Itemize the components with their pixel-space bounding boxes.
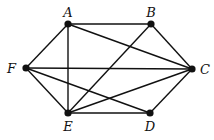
node-E [64, 109, 71, 116]
node-label-B: B [145, 5, 156, 20]
graph-diagram: ABCDEF [0, 0, 214, 140]
node-label-F: F [6, 61, 17, 76]
node-label-C: C [200, 62, 210, 77]
node-label-D: D [144, 119, 156, 134]
edge-A-F [26, 24, 68, 68]
node-C [188, 65, 195, 72]
node-label-E: E [62, 119, 73, 134]
node-D [146, 109, 153, 116]
node-label-A: A [62, 5, 72, 20]
node-B [147, 20, 154, 27]
edges [26, 24, 192, 113]
edge-C-D [150, 69, 192, 113]
node-F [22, 64, 29, 71]
node-A [64, 20, 71, 27]
edge-E-F [26, 68, 68, 113]
edge-C-F [26, 68, 192, 69]
